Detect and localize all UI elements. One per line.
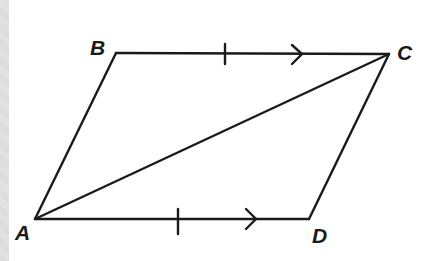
parallelogram-figure [0, 0, 428, 261]
vertex-label-d: D [312, 225, 327, 246]
edge-ab [35, 53, 116, 219]
vertex-label-c: C [397, 42, 412, 63]
diagonal-ac [35, 54, 389, 219]
vertex-label-b: B [90, 37, 105, 58]
vertex-label-a: A [15, 222, 30, 243]
edge-bc [116, 53, 389, 54]
edge-cd [309, 54, 389, 219]
